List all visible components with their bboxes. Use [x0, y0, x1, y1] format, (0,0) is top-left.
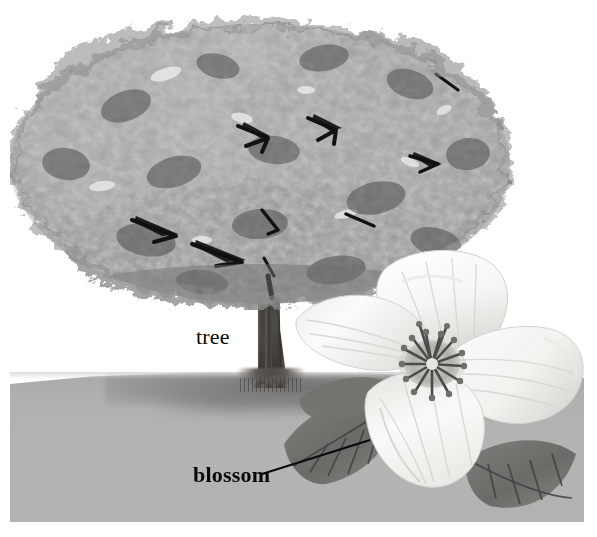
label-tree: tree — [196, 326, 230, 348]
dogwood-blossom — [276, 248, 594, 516]
page-margin-bottom — [0, 522, 597, 537]
scanned-illustration-plate — [0, 0, 597, 537]
page-margin-left — [0, 0, 10, 537]
illustration-figure: tree blossom — [0, 0, 597, 537]
page-margin-right — [584, 0, 597, 537]
petal-lower — [365, 371, 484, 487]
label-blossom: blossom — [193, 464, 270, 486]
